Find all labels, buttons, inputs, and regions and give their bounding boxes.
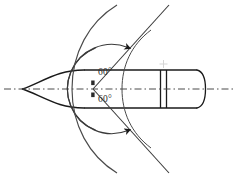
upper-angle-label: 60° bbox=[98, 67, 112, 77]
apex-tick-upper bbox=[91, 81, 94, 86]
ogive-nose-lower-curve bbox=[23, 89, 85, 108]
apex-tick-lower bbox=[91, 93, 94, 98]
construction-cross bbox=[160, 60, 168, 68]
projectile-angle-diagram: 60° 60° bbox=[0, 0, 238, 179]
diagram-canvas bbox=[0, 0, 238, 179]
ogive-nose-upper-curve bbox=[23, 70, 85, 89]
lower-angle-label: 60° bbox=[98, 94, 112, 104]
